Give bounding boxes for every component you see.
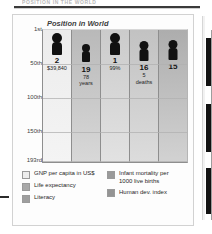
gridline-50th [43, 64, 187, 65]
legend-item-literacy[interactable]: Literacy [22, 194, 105, 203]
person-icon-human-dev-index [169, 40, 178, 60]
legend-label-literacy: Literacy [34, 194, 55, 202]
bar-column-infant-mortality[interactable]: 16 5 deaths [130, 30, 159, 162]
legend-item-life-expectancy[interactable]: Life expectancy [22, 182, 105, 191]
legend-item-gnp[interactable]: GNP per capita in US$ [22, 170, 105, 179]
bar-detail-gnp: $39,840 [43, 65, 71, 72]
person-icon-infant-mortality [140, 41, 149, 61]
legend-label-infant-mortality-line1: Infant mortality per [119, 170, 169, 176]
page-edge-highlight [202, 16, 205, 220]
plot-area: 2 $39,840 19 78 years [42, 29, 188, 163]
page-top-caption: POSITION IN THE WORLD [22, 0, 192, 5]
figure-page: POSITION IN THE WORLD Position in World … [0, 0, 212, 234]
gridline-100th [43, 98, 187, 99]
legend-label-gnp: GNP per capita in US$ [34, 170, 95, 178]
legend-item-human-dev-index[interactable]: Human dev. index [107, 189, 190, 198]
chart-legend: GNP per capita in US$ Life expectancy Li… [18, 170, 190, 222]
bar-column-human-dev-index[interactable]: 15 [159, 30, 187, 162]
figure-card: Position in World 1st 50th 100th 150th 1… [12, 14, 194, 226]
gridline-193rd [43, 161, 187, 162]
legend-swatch-literacy [22, 195, 30, 203]
person-icon-gnp [52, 33, 62, 55]
bar-detail-literacy: 99% [101, 65, 129, 72]
person-icon-life-expectancy [82, 44, 90, 62]
legend-label-infant-mortality-line2: 1000 live births [119, 178, 159, 184]
legend-swatch-gnp [22, 171, 30, 179]
page-edge-mark-1 [206, 38, 211, 86]
legend-label-infant-mortality: Infant mortality per 1000 live births [119, 170, 169, 185]
y-tick-193rd: 193rd [16, 157, 42, 163]
gridline-150th [43, 132, 187, 133]
legend-label-life-expectancy: Life expectancy [34, 182, 76, 190]
legend-swatch-human-dev-index [107, 189, 115, 197]
bar-detail2-infant-mortality: deaths [130, 79, 158, 86]
y-axis: 1st 50th 100th 150th 193rd [13, 29, 42, 164]
y-tick-100th: 100th [16, 94, 42, 100]
column-group: 2 $39,840 19 78 years [43, 30, 187, 162]
legend-label-human-dev-index: Human dev. index [119, 189, 167, 197]
bar-value-life-expectancy: 19 [72, 65, 100, 74]
bar-column-life-expectancy[interactable]: 19 78 years [72, 30, 101, 162]
page-edge-mark-3 [206, 168, 211, 214]
bar-detail-infant-mortality: 5 [130, 72, 158, 79]
y-tick-150th: 150th [16, 128, 42, 134]
legend-swatch-life-expectancy [22, 183, 30, 191]
bar-column-literacy[interactable]: 1 99% [101, 30, 130, 162]
legend-column-left: GNP per capita in US$ Life expectancy Li… [18, 170, 105, 222]
chart-title: Position in World [47, 19, 109, 28]
page-edge-strip [211, 30, 212, 220]
y-tick-1st: 1st [16, 26, 42, 32]
legend-column-right: Infant mortality per 1000 live births Hu… [105, 170, 190, 222]
bar-detail2-life-expectancy: years [72, 80, 100, 87]
header-rule-thin [14, 8, 200, 9]
page-left-mark [0, 196, 9, 198]
legend-swatch-infant-mortality [107, 171, 115, 179]
y-tick-50th: 50th [16, 60, 42, 66]
person-icon-literacy [110, 33, 120, 55]
legend-item-infant-mortality[interactable]: Infant mortality per 1000 live births [107, 170, 190, 185]
bar-column-gnp[interactable]: 2 $39,840 [43, 30, 72, 162]
page-edge-mark-2 [206, 104, 211, 152]
